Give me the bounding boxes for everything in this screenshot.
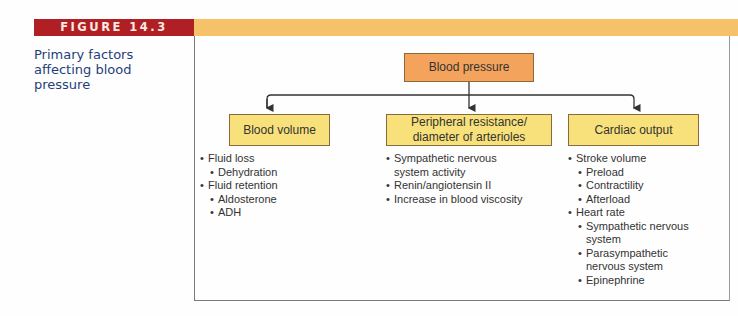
node-peripheral-resistance: Peripheral resistance/ diameter of arter… (386, 114, 552, 146)
list-item: Stroke volume (568, 152, 689, 166)
list-item: Sympathetic nervous (578, 220, 689, 234)
list-item-continuation: system (578, 233, 689, 247)
continuation-text: system activity (394, 166, 466, 178)
node-title-line: diameter of arterioles (413, 130, 526, 145)
cardiac-output-factors: Stroke volume Preload Contractility Afte… (568, 152, 689, 287)
list-item-continuation: nervous system (578, 260, 689, 274)
node-blood-volume: Blood volume (229, 114, 330, 146)
list-item: Preload (578, 166, 689, 180)
node-cardiac-output: Cardiac output (568, 114, 699, 146)
continuation-text: system (586, 233, 621, 245)
list-item: Fluid retention (200, 179, 278, 193)
list-item: Epinephrine (578, 274, 689, 288)
list-item: Fluid loss (200, 152, 278, 166)
list-item: Renin/angiotensin II (386, 179, 522, 193)
list-item: Dehydration (210, 166, 278, 180)
list-item-continuation: system activity (386, 166, 522, 180)
peripheral-resistance-factors: Sympathetic nervous system activity Reni… (386, 152, 522, 206)
list-item: ADH (210, 206, 278, 220)
blood-volume-factors: Fluid loss Dehydration Fluid retention A… (200, 152, 278, 220)
continuation-text: nervous system (586, 260, 663, 272)
list-item: Contractility (578, 179, 689, 193)
root-node-blood-pressure: Blood pressure (404, 53, 534, 82)
list-item: Parasympathetic (578, 247, 689, 261)
list-item: Afterload (578, 193, 689, 207)
list-item: Aldosterone (210, 193, 278, 207)
list-item: Sympathetic nervous (386, 152, 522, 166)
node-title-line: Peripheral resistance/ (411, 115, 527, 130)
list-item: Heart rate (568, 206, 689, 220)
list-item: Increase in blood viscosity (386, 193, 522, 207)
